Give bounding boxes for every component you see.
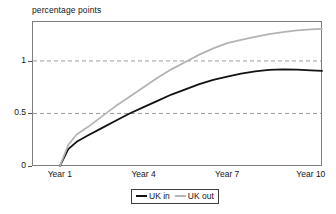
x-tick-label: Year 7 (199, 169, 255, 179)
chart-canvas (0, 0, 336, 214)
legend-label: UK in (149, 191, 170, 201)
y-tick-mark (28, 166, 32, 167)
series-line (60, 29, 322, 166)
legend-label: UK out (188, 191, 214, 201)
chart-legend: UK inUK out (131, 189, 219, 204)
y-tick-label: 0.5 (2, 107, 26, 117)
legend-item[interactable]: UK out (175, 191, 214, 201)
y-tick-mark (28, 113, 32, 114)
legend-swatch-icon (136, 195, 147, 197)
y-tick-label: 1 (2, 55, 26, 65)
y-tick-mark (28, 61, 32, 62)
legend-swatch-icon (175, 195, 186, 197)
x-tick-label: Year 4 (116, 169, 172, 179)
series-lines (60, 29, 322, 166)
legend-item[interactable]: UK in (136, 191, 170, 201)
y-tick-label: 0 (2, 160, 26, 170)
x-tick-label: Year 1 (32, 169, 88, 179)
x-tick-label: Year 10 (283, 169, 336, 179)
chart-figure: percentage points 00.51 Year 1Year 4Year… (0, 0, 336, 214)
